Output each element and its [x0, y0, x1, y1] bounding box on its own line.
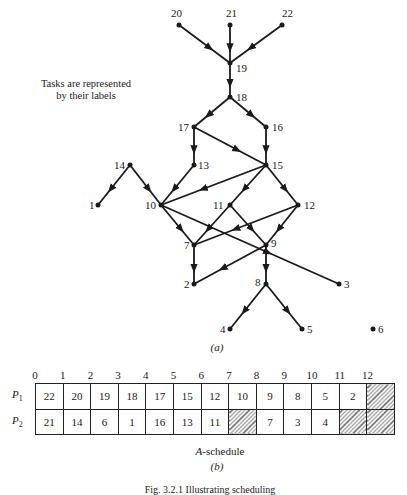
arrow-icon — [180, 227, 181, 229]
arrow-icon — [223, 267, 225, 268]
arrow-icon — [208, 114, 210, 115]
node-dot — [264, 243, 269, 248]
task-slot: 11 — [201, 409, 229, 435]
node-label: 1 — [89, 199, 95, 211]
node-dot — [228, 203, 233, 208]
task-precedence-graph: 20212219181716141315110111279283456 — [0, 0, 407, 360]
arrow-icon — [111, 187, 112, 189]
node-dot — [228, 327, 233, 332]
task-slot: 19 — [91, 384, 119, 410]
node-label: 4 — [220, 323, 226, 335]
task-slot: 5 — [311, 384, 339, 410]
node-dot — [300, 327, 305, 332]
node-dot — [337, 282, 342, 287]
node-label: 3 — [344, 278, 350, 290]
node-1: 1 — [89, 199, 101, 211]
edge-22-19 — [230, 25, 282, 63]
node-label: 7 — [184, 239, 190, 251]
time-tick: 5 — [171, 369, 177, 381]
arrow-icon — [235, 149, 237, 150]
schedule-caption: (b) — [195, 460, 239, 472]
node-label: 17 — [178, 121, 190, 133]
schedule-row-p1: 22201918171512109852 — [36, 384, 395, 410]
task-slot: 1 — [118, 409, 146, 435]
node-label: 2 — [184, 278, 190, 290]
task-slot: 2 — [339, 384, 367, 410]
node-label: 20 — [171, 7, 183, 19]
node-dot — [192, 282, 197, 287]
row-label-text: P — [12, 388, 19, 400]
task-slot: 15 — [173, 384, 201, 410]
arrow-icon — [251, 47, 253, 48]
arrow-icon — [250, 228, 251, 229]
node-label: 14 — [114, 159, 126, 171]
node-label: 15 — [272, 159, 284, 171]
node-dot — [159, 203, 164, 208]
graph-nodes: 20212219181716141315110111279283456 — [89, 7, 384, 335]
task-slot: 12 — [201, 384, 229, 410]
node-dot — [228, 23, 233, 28]
node-5: 5 — [300, 323, 314, 335]
node-20: 20 — [171, 7, 183, 28]
arrow-icon — [279, 227, 280, 229]
time-tick: 11 — [334, 369, 345, 381]
time-tick: 12 — [362, 369, 373, 381]
node-dot — [264, 125, 269, 130]
node-label: 16 — [272, 121, 284, 133]
arrow-icon — [250, 114, 252, 115]
node-dot — [228, 61, 233, 66]
node-21: 21 — [226, 7, 237, 28]
graph-edges — [98, 25, 339, 329]
node-dot — [296, 203, 301, 208]
node-6: 6 — [371, 323, 385, 335]
edge-8-4 — [230, 284, 266, 329]
node-11: 11 — [213, 199, 233, 211]
node-label: 21 — [226, 7, 237, 19]
time-tick: 2 — [88, 369, 94, 381]
row-label-sub: 1 — [19, 394, 23, 403]
arrow-icon — [244, 309, 245, 311]
node-3: 3 — [337, 278, 351, 290]
node-9: 9 — [264, 237, 278, 249]
node-dot — [264, 163, 269, 168]
task-slot: 20 — [63, 384, 91, 410]
node-label: 13 — [198, 159, 210, 171]
node-4: 4 — [220, 323, 233, 335]
task-slot: 9 — [256, 384, 284, 410]
node-14: 14 — [114, 159, 133, 171]
node-label: 11 — [213, 199, 224, 211]
node-dot — [192, 125, 197, 130]
node-label: 12 — [304, 199, 315, 211]
row-label-sub: 2 — [19, 420, 23, 429]
node-dot — [280, 23, 285, 28]
edge-20-19 — [179, 25, 230, 63]
node-label: 19 — [236, 62, 248, 74]
task-slot: 4 — [311, 409, 339, 435]
time-tick: 10 — [307, 369, 318, 381]
graph-note: Tasks are represented by their labels — [30, 78, 142, 102]
time-tick: 1 — [60, 369, 66, 381]
arrow-icon — [236, 228, 238, 229]
task-slot: 21 — [36, 409, 64, 435]
edge-18-17 — [194, 97, 230, 127]
time-tick: 7 — [226, 369, 232, 381]
edge-14-1 — [98, 165, 130, 205]
node-22: 22 — [280, 7, 294, 28]
node-dot — [128, 163, 133, 168]
node-dot — [96, 203, 101, 208]
schedule-title-rest: -schedule — [202, 445, 244, 457]
task-slot: 6 — [91, 409, 119, 435]
node-label: 10 — [145, 199, 157, 211]
node-label: 9 — [271, 237, 277, 249]
task-slot: 22 — [36, 384, 64, 410]
task-slot: 16 — [146, 409, 174, 435]
arrow-icon — [284, 187, 285, 189]
figure-caption: Fig. 3.2.1 Illustrating scheduling — [110, 484, 310, 495]
task-slot: 13 — [173, 409, 201, 435]
row-label-text: P — [12, 414, 19, 426]
task-slot: 14 — [63, 409, 91, 435]
node-dot — [177, 23, 182, 28]
note-line-2: by their labels — [30, 90, 142, 102]
arrow-icon — [203, 188, 205, 189]
task-slot: 17 — [146, 384, 174, 410]
